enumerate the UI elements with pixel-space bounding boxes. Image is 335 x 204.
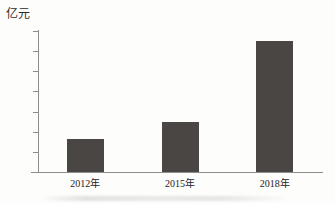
x-axis-line bbox=[31, 172, 323, 173]
y-axis-tick-mark bbox=[33, 172, 38, 173]
bar-2015 bbox=[162, 122, 199, 172]
bar-2012 bbox=[67, 139, 104, 172]
bar-2018 bbox=[256, 41, 293, 172]
bar-chart-figure: 亿元 020406080100120140 2012年2015年2018年 bbox=[0, 0, 335, 204]
plot-area bbox=[38, 31, 322, 172]
x-axis-label: 2012年 bbox=[45, 177, 125, 190]
x-axis-label: 2018年 bbox=[235, 177, 315, 190]
scan-artifact-smudge bbox=[40, 196, 290, 201]
y-axis-unit-label: 亿元 bbox=[6, 7, 30, 21]
x-axis-label: 2015年 bbox=[140, 177, 220, 190]
